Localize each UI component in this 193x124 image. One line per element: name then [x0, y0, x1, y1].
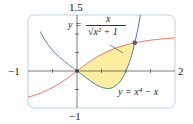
y-min-label: −1: [69, 111, 81, 122]
x-max-label: 2: [178, 66, 184, 77]
plot-area: [0, 0, 193, 124]
curve2-label: y = x⁴ − x: [118, 87, 158, 97]
x-min-label: −1: [8, 66, 20, 77]
curve1-label-y: y =: [68, 20, 82, 30]
intersection-origin: [75, 69, 79, 73]
y-max-label: 1.5: [69, 2, 83, 13]
intersection-point: [133, 41, 137, 45]
curve1-denominator: √x² + 1: [88, 27, 118, 37]
curve1-numerator: x: [106, 14, 110, 24]
shaded-region: [77, 43, 135, 89]
